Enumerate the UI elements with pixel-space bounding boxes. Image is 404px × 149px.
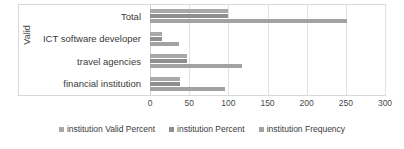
x-tick-label: 0 xyxy=(148,98,153,108)
bar xyxy=(150,9,228,13)
bar-chart: Valid TotalICT software developertravel … xyxy=(0,0,404,149)
bar xyxy=(150,87,225,91)
bar xyxy=(150,42,179,46)
legend-label: institution Frequency xyxy=(267,124,345,134)
bar-group xyxy=(150,28,385,51)
legend-item[interactable]: institution Percent xyxy=(169,124,245,134)
category-label: Total xyxy=(22,11,144,22)
category-label: ICT software developer xyxy=(22,33,144,44)
bar xyxy=(150,19,347,23)
category-label: travel agencies xyxy=(22,56,144,67)
legend-swatch-icon xyxy=(259,127,264,132)
bar xyxy=(150,82,180,86)
bar xyxy=(150,37,162,41)
legend-item[interactable]: institution Valid Percent xyxy=(59,124,155,134)
bar xyxy=(150,14,228,18)
legend-item[interactable]: institution Frequency xyxy=(259,124,345,134)
gridline xyxy=(385,5,386,95)
bar xyxy=(150,77,180,81)
bar xyxy=(150,54,187,58)
legend-label: institution Valid Percent xyxy=(67,124,155,134)
bar xyxy=(150,32,162,36)
bar-group xyxy=(150,73,385,96)
chart-legend: institution Valid Percentinstitution Per… xyxy=(0,124,404,134)
x-axis-tick-labels: 050100150200250300 xyxy=(150,98,385,112)
legend-swatch-icon xyxy=(169,127,174,132)
x-tick-label: 150 xyxy=(260,98,274,108)
bar-group xyxy=(150,5,385,28)
bar xyxy=(150,59,187,63)
legend-label: institution Percent xyxy=(177,124,245,134)
x-tick-label: 300 xyxy=(378,98,392,108)
x-tick-label: 100 xyxy=(221,98,235,108)
x-tick-label: 250 xyxy=(339,98,353,108)
x-tick-label: 50 xyxy=(184,98,193,108)
bar xyxy=(150,64,242,68)
plot-area xyxy=(150,5,385,95)
bar-group xyxy=(150,50,385,73)
category-label-column: TotalICT software developertravel agenci… xyxy=(22,5,144,95)
category-label: financial institution xyxy=(22,78,144,89)
legend-swatch-icon xyxy=(59,127,64,132)
x-tick-label: 200 xyxy=(300,98,314,108)
